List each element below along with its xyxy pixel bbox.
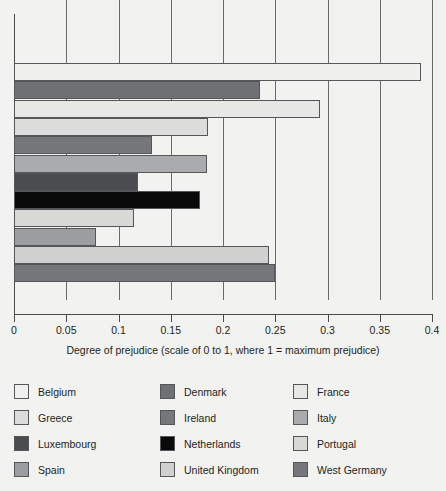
bar-west-germany: [14, 264, 275, 282]
bar-chart-figure: 00.050.10.150.20.250.30.350.4 Degree of …: [0, 0, 446, 370]
legend-swatch: [160, 462, 175, 477]
tick-mark-0: [14, 314, 15, 322]
legend-swatch: [293, 436, 308, 451]
bar-portugal: [14, 209, 134, 227]
bars-layer: [14, 63, 432, 283]
legend-label: France: [317, 386, 350, 398]
bar-united-kingdom: [14, 246, 269, 264]
legend-label: Portugal: [317, 438, 356, 450]
x-axis-title: Degree of prejudice (scale of 0 to 1, wh…: [0, 344, 446, 356]
legend-item-denmark: Denmark: [160, 383, 227, 400]
bar-row: [14, 81, 432, 99]
x-tick-label: 0: [11, 324, 17, 336]
legend-label: Belgium: [38, 386, 76, 398]
legend-swatch: [160, 384, 175, 399]
bar-row: [14, 209, 432, 227]
x-tick-label: 0.2: [216, 324, 231, 336]
bar-row: [14, 63, 432, 81]
tick-mark-0.15: [171, 314, 172, 322]
chart-legend: BelgiumGreeceLuxembourgSpainDenmarkIrela…: [0, 383, 446, 491]
legend-item-portugal: Portugal: [293, 435, 356, 452]
tick-mark-0.25: [275, 314, 276, 322]
bar-row: [14, 155, 432, 173]
tick-mark-0.35: [380, 314, 381, 322]
bar-row: [14, 118, 432, 136]
legend-swatch: [14, 436, 29, 451]
bar-row: [14, 100, 432, 118]
bar-row: [14, 136, 432, 154]
legend-item-france: France: [293, 383, 350, 400]
legend-label: United Kingdom: [184, 464, 259, 476]
legend-label: Ireland: [184, 412, 216, 424]
legend-swatch: [293, 410, 308, 425]
legend-item-netherlands: Netherlands: [160, 435, 241, 452]
bar-netherlands: [14, 191, 200, 209]
bar-row: [14, 246, 432, 264]
legend-item-west-germany: West Germany: [293, 461, 387, 478]
bar-belgium: [14, 63, 421, 81]
bar-spain: [14, 228, 96, 246]
x-tick-label: 0.1: [111, 324, 126, 336]
x-tick-label: 0.4: [425, 324, 440, 336]
x-tick-label: 0.05: [56, 324, 76, 336]
legend-swatch: [293, 384, 308, 399]
gridline-0.4: [432, 0, 433, 300]
legend-label: Denmark: [184, 386, 227, 398]
legend-label: West Germany: [317, 464, 387, 476]
legend-label: Luxembourg: [38, 438, 96, 450]
bar-ireland: [14, 136, 152, 154]
x-tick-label: 0.15: [161, 324, 181, 336]
legend-item-luxembourg: Luxembourg: [14, 435, 96, 452]
bar-italy: [14, 155, 207, 173]
legend-item-italy: Italy: [293, 409, 336, 426]
tick-mark-0.2: [223, 314, 224, 322]
legend-swatch: [14, 384, 29, 399]
legend-swatch: [160, 410, 175, 425]
bar-denmark: [14, 81, 260, 99]
tick-mark-0.05: [66, 314, 67, 322]
tick-mark-0.4: [432, 314, 433, 322]
legend-item-spain: Spain: [14, 461, 65, 478]
bar-row: [14, 173, 432, 191]
legend-swatch: [14, 410, 29, 425]
bar-luxembourg: [14, 173, 138, 191]
bar-row: [14, 228, 432, 246]
x-tick-label: 0.25: [265, 324, 285, 336]
x-tick-label: 0.35: [370, 324, 390, 336]
legend-item-belgium: Belgium: [14, 383, 76, 400]
tick-mark-0.1: [119, 314, 120, 322]
legend-item-ireland: Ireland: [160, 409, 216, 426]
bar-row: [14, 264, 432, 282]
tick-mark-0.3: [328, 314, 329, 322]
legend-swatch: [14, 462, 29, 477]
legend-swatch: [160, 436, 175, 451]
legend-label: Italy: [317, 412, 336, 424]
bar-greece: [14, 118, 208, 136]
bar-row: [14, 191, 432, 209]
legend-swatch: [293, 462, 308, 477]
legend-label: Netherlands: [184, 438, 241, 450]
legend-label: Spain: [38, 464, 65, 476]
legend-item-greece: Greece: [14, 409, 72, 426]
legend-item-united-kingdom: United Kingdom: [160, 461, 259, 478]
x-tick-label: 0.3: [320, 324, 335, 336]
legend-label: Greece: [38, 412, 72, 424]
bar-france: [14, 100, 320, 118]
